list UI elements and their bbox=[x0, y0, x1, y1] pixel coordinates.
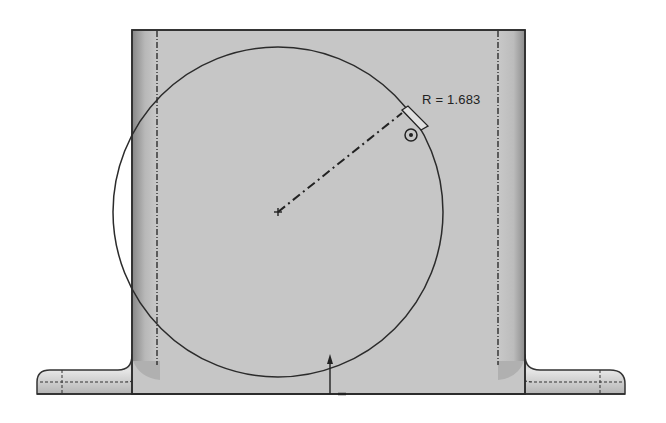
cad-drawing-canvas[interactable] bbox=[0, 0, 666, 423]
body-face[interactable] bbox=[132, 30, 525, 394]
radius-dimension-label[interactable]: R = 1.683 bbox=[422, 92, 481, 107]
right-wall bbox=[498, 31, 524, 361]
left-wall bbox=[133, 31, 157, 361]
